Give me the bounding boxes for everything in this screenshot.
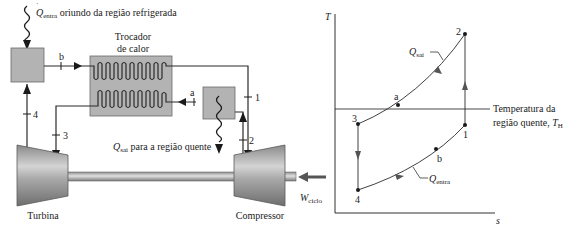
point-a-label: a xyxy=(394,91,399,102)
t-axis-label: T xyxy=(325,11,332,22)
state-3-label: 3 xyxy=(63,130,68,141)
compressor xyxy=(234,145,285,206)
arrow-a-icon xyxy=(178,98,186,106)
heat-exchanger-label-2: de calor xyxy=(117,43,150,54)
point-4 xyxy=(356,188,360,192)
hot-temp-label-2: região quente, TH xyxy=(493,117,563,130)
process-1-2-arrow-icon xyxy=(462,81,468,90)
refrigeration-cycle-diagram: Qentra oriundo da região refrigerada ˙ T… xyxy=(0,0,570,233)
hot-heat-exchanger xyxy=(203,87,235,119)
process-3-4-arrow-icon xyxy=(355,151,361,160)
heat-exchanger-label-1: Trocador xyxy=(115,31,152,42)
q-in-label: Qentra xyxy=(429,173,451,186)
point-1 xyxy=(463,123,467,127)
arrow-b-icon xyxy=(74,62,82,70)
state-2-label: 2 xyxy=(249,135,254,146)
dot-accent: ˙ xyxy=(36,2,39,11)
state-4-label: 4 xyxy=(33,109,38,120)
heat-in-label: Qentra oriundo da região refrigerada xyxy=(36,7,177,20)
hot-temp-label-1: Temperatura da xyxy=(493,103,556,114)
arrow-4-icon xyxy=(23,84,31,94)
turbine-label: Turbina xyxy=(27,210,59,221)
process-4-1-arrow-icon xyxy=(395,174,404,180)
point-4-label: 4 xyxy=(355,194,360,205)
heat-out-label: Qsai para a região quente xyxy=(113,141,212,154)
s-axis-label: s xyxy=(496,215,500,226)
heat-in-arrow-icon xyxy=(23,6,31,50)
point-3-label: 3 xyxy=(352,113,357,124)
point-a xyxy=(396,103,400,107)
work-arrow-icon xyxy=(298,172,308,182)
q-out-leader xyxy=(430,52,443,60)
point-b xyxy=(434,147,438,151)
point-2-label: 2 xyxy=(456,26,461,37)
state-b-label: b xyxy=(59,51,64,62)
compressor-label: Compressor xyxy=(236,210,285,221)
cold-heat-exchanger xyxy=(11,48,44,82)
turbine xyxy=(17,145,68,206)
state-a-label: a xyxy=(190,87,195,98)
work-label: Wciclo xyxy=(300,192,322,205)
q-out-label: Qsai xyxy=(409,46,424,59)
point-2 xyxy=(463,32,467,36)
state-1-label: 1 xyxy=(255,92,260,103)
point-1-label: 1 xyxy=(463,129,468,140)
q-in-leader xyxy=(413,167,428,178)
point-b-label: b xyxy=(437,153,442,164)
ts-diagram: T s Temperatura da região quente, TH 2 1… xyxy=(325,11,563,226)
arrow-2-icon xyxy=(239,112,247,122)
